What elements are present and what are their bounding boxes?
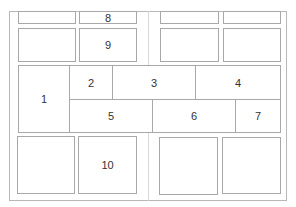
region-row2-right-b [223,28,281,62]
region-8: 8 [79,11,137,24]
region-bottom-right-a [159,137,218,195]
region-9: 9 [79,28,137,62]
region-bottom-right-b [222,137,281,194]
region-1: 1 [18,65,70,133]
region-5: 5 [69,99,153,133]
region-3: 3 [112,65,196,100]
region-6: 6 [152,99,236,133]
region-row2-left [18,28,76,62]
region-7: 7 [235,99,281,133]
region-top-left [18,11,76,24]
region-row2-right-a [160,28,219,62]
region-2: 2 [69,65,113,100]
region-top-right-a [160,11,219,24]
region-10: 10 [78,136,137,194]
region-bottom-left [17,136,75,194]
region-top-right-b [223,11,281,24]
region-4: 4 [195,65,281,100]
